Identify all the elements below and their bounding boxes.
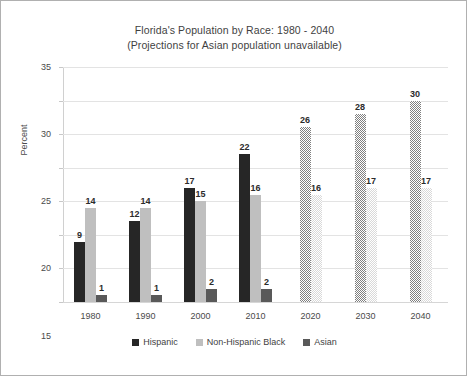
bar-value-label: 1	[154, 283, 159, 293]
y-axis-tick-label: 20	[41, 263, 51, 273]
bar-value-label: 1	[99, 283, 104, 293]
gridline-0	[63, 302, 448, 303]
bar-asian-2010: 2	[261, 289, 272, 302]
x-axis-tick-label-1990: 1990	[135, 311, 155, 321]
legend-item-non-hispanic-black[interactable]: Non-Hispanic Black	[196, 337, 286, 347]
chart-title: Florida's Population by Race: 1980 - 204…	[1, 23, 467, 53]
bar-value-label: 16	[250, 183, 260, 193]
legend-label: Asian	[314, 337, 337, 347]
bar-non-hispanic-black-2000: 15	[195, 201, 206, 302]
bar-value-label: 16	[311, 183, 321, 193]
y-axis-tick-label: 35	[41, 62, 51, 72]
legend-item-hispanic[interactable]: Hispanic	[132, 337, 178, 347]
bar-value-label: 14	[140, 196, 150, 206]
bar-non-hispanic-black-2010: 16	[250, 195, 261, 302]
x-axis-tick-label-2000: 2000	[190, 311, 210, 321]
bar-group-2010: 221622010	[239, 67, 272, 302]
bar-value-label: 15	[195, 189, 205, 199]
y-tick-mark-15: 15	[59, 201, 63, 202]
chart-title-line-2: (Projections for Asian population unavai…	[1, 38, 467, 53]
chart-title-line-1: Florida's Population by Race: 1980 - 204…	[1, 23, 467, 38]
y-tick-mark-5: 5	[59, 268, 63, 269]
y-axis-tick-label: 30	[41, 129, 51, 139]
bar-value-label: 2	[264, 277, 269, 287]
bar-value-label: 30	[410, 89, 420, 99]
bar-non-hispanic-black-2020: 16	[311, 195, 322, 302]
bar-value-label: 28	[355, 102, 365, 112]
bar-value-label: 17	[421, 176, 431, 186]
bar-asian-1980: 1	[96, 295, 107, 302]
bar-hispanic-2030: 28	[355, 114, 366, 302]
chart-legend: HispanicNon-Hispanic BlackAsian	[1, 337, 467, 347]
x-axis-tick-label-2020: 2020	[300, 311, 320, 321]
bar-non-hispanic-black-2030: 17	[366, 188, 377, 302]
bar-hispanic-1980: 9	[74, 242, 85, 302]
legend-swatch-icon	[303, 339, 310, 346]
x-axis-tick-label-2010: 2010	[245, 311, 265, 321]
bar-value-label: 14	[85, 196, 95, 206]
bar-value-label: 26	[300, 115, 310, 125]
bar-asian-1990: 1	[151, 295, 162, 302]
bar-group-1990: 121411990	[129, 67, 162, 302]
bar-value-label: 2	[209, 277, 214, 287]
bar-non-hispanic-black-2040: 17	[421, 188, 432, 302]
bar-value-label: 12	[129, 209, 139, 219]
bar-hispanic-1990: 12	[129, 221, 140, 302]
bar-value-label: 17	[184, 176, 194, 186]
x-axis-tick-label-2040: 2040	[410, 311, 430, 321]
x-axis-tick-label-1980: 1980	[80, 311, 100, 321]
bar-asian-2000: 2	[206, 289, 217, 302]
legend-label: Hispanic	[143, 337, 178, 347]
legend-swatch-icon	[132, 339, 139, 346]
y-axis-line	[63, 67, 64, 302]
bar-hispanic-2020: 26	[300, 127, 311, 302]
bar-hispanic-2000: 17	[184, 188, 195, 302]
y-tick-mark-20: 20	[59, 168, 63, 169]
bar-value-label: 17	[366, 176, 376, 186]
y-axis-title: Percent	[19, 105, 29, 175]
bar-non-hispanic-black-1980: 14	[85, 208, 96, 302]
y-tick-mark-10: 10	[59, 235, 63, 236]
bar-hispanic-2040: 30	[410, 101, 421, 302]
bar-group-2020: 26162020	[300, 67, 322, 302]
plot-area: 05101520253035 9141198012141199017152200…	[63, 67, 448, 302]
bar-value-label: 9	[77, 230, 82, 240]
bar-hispanic-2010: 22	[239, 154, 250, 302]
legend-item-asian[interactable]: Asian	[303, 337, 337, 347]
bar-group-1980: 91411980	[74, 67, 107, 302]
y-tick-mark-30: 30	[59, 101, 63, 102]
x-axis-tick-label-2030: 2030	[355, 311, 375, 321]
legend-swatch-icon	[196, 339, 203, 346]
y-tick-mark-25: 25	[59, 134, 63, 135]
bar-group-2030: 28172030	[355, 67, 377, 302]
bar-non-hispanic-black-1990: 14	[140, 208, 151, 302]
y-tick-mark-0: 0	[59, 302, 63, 303]
bar-value-label: 22	[239, 142, 249, 152]
bar-group-2040: 30172040	[410, 67, 432, 302]
legend-label: Non-Hispanic Black	[207, 337, 286, 347]
y-axis-tick-label: 25	[41, 196, 51, 206]
chart-container: Florida's Population by Race: 1980 - 204…	[0, 0, 467, 376]
y-tick-mark-35: 35	[59, 67, 63, 68]
bar-group-2000: 171522000	[184, 67, 217, 302]
